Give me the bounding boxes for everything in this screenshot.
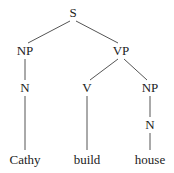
leaf-cathy: Cathy [9, 152, 41, 167]
syntax-tree-diagram: S NP VP N V NP N Cathy build house [0, 0, 174, 173]
leaf-build: build [74, 152, 101, 167]
node-np-subject: NP [17, 43, 34, 58]
node-np-object: NP [142, 80, 159, 95]
node-v: V [82, 80, 92, 95]
leaf-house: house [135, 152, 166, 167]
node-n-subject: N [20, 80, 30, 95]
node-s: S [69, 5, 76, 20]
edge-s-np [28, 21, 70, 43]
node-n-object: N [145, 117, 155, 132]
node-vp: VP [113, 43, 130, 58]
edge-s-vp [76, 21, 118, 43]
edge-vp-v [90, 59, 118, 80]
edge-vp-np [124, 59, 147, 80]
